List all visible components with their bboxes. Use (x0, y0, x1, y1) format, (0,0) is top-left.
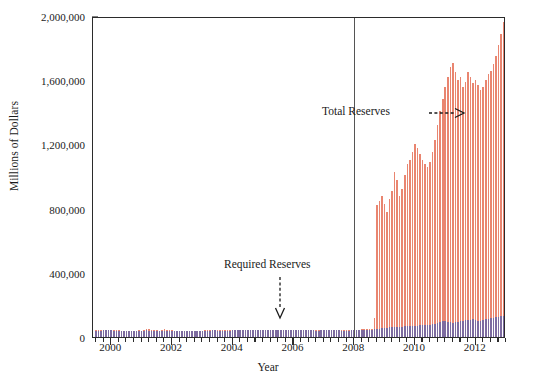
bar (389, 199, 391, 337)
x-axis-minor-tick-mark (277, 338, 278, 342)
bar (444, 87, 446, 337)
x-axis-minor-tick-mark (254, 338, 255, 342)
bar (381, 328, 383, 337)
x-axis-minor-tick-mark (194, 338, 195, 342)
bar (212, 330, 214, 337)
x-axis-minor-tick-mark (330, 338, 331, 342)
bar (126, 331, 128, 337)
bar (184, 331, 186, 337)
bar (419, 154, 421, 337)
x-axis-tick-label: 2006 (281, 341, 303, 353)
bar (488, 319, 490, 337)
bar (450, 322, 452, 337)
bar (338, 330, 340, 337)
bar (156, 331, 158, 337)
bar (488, 74, 490, 337)
bar (437, 323, 439, 337)
bar (326, 330, 328, 337)
bar (181, 331, 183, 337)
bar (376, 205, 378, 337)
bar (164, 331, 166, 337)
x-axis-minor-tick-mark (125, 338, 126, 342)
x-axis-minor-tick-mark (308, 338, 309, 342)
bar (105, 330, 107, 337)
bar (409, 160, 411, 337)
bar (404, 175, 406, 337)
bar (313, 330, 315, 337)
y-axis-tick-label: 2,000,000 (5, 11, 85, 23)
bar (490, 71, 492, 337)
bar (396, 327, 398, 337)
bar (318, 331, 320, 338)
x-axis-minor-tick-mark (490, 338, 491, 342)
bar (472, 319, 474, 337)
x-axis-minor-tick-mark (497, 338, 498, 342)
bar (419, 325, 421, 337)
bar (427, 167, 429, 337)
bar (341, 331, 343, 338)
x-axis-minor-tick-mark (148, 338, 149, 342)
bar (194, 331, 196, 337)
bar (308, 330, 310, 337)
bar (470, 320, 472, 337)
bar (462, 321, 464, 337)
bar (153, 331, 155, 337)
bar (391, 191, 393, 337)
x-axis-minor-tick-mark (323, 338, 324, 342)
annotation-arrow-total-reserves (428, 105, 468, 121)
x-axis-minor-tick-mark (376, 338, 377, 342)
bar (384, 204, 386, 337)
bar (336, 330, 338, 337)
x-axis-minor-tick-mark (95, 338, 96, 342)
bar (346, 331, 348, 337)
bar (252, 330, 254, 337)
y-axis-tick-label: 400,000 (5, 268, 85, 280)
bar (272, 330, 274, 337)
bar (417, 326, 419, 337)
x-axis-minor-tick-mark (186, 338, 187, 342)
bar (303, 330, 305, 337)
bar (229, 331, 231, 337)
bar (348, 331, 350, 337)
bar (176, 331, 178, 337)
bar (389, 327, 391, 337)
x-axis-minor-tick-mark (338, 338, 339, 342)
bar (199, 331, 201, 337)
bar (369, 330, 371, 337)
bar (485, 80, 487, 337)
bar (394, 327, 396, 337)
bar (407, 164, 409, 337)
bar (472, 83, 474, 337)
plot-area (92, 17, 505, 338)
bar (237, 330, 239, 337)
bar (500, 34, 502, 337)
bar (280, 330, 282, 337)
bar (399, 327, 401, 337)
bar (234, 330, 236, 337)
bar (379, 201, 381, 337)
bar (394, 172, 396, 337)
bar (186, 331, 188, 337)
bar (293, 330, 295, 337)
bar (116, 331, 118, 337)
bar (159, 331, 161, 337)
x-axis-tick-label: 2000 (99, 341, 121, 353)
bar (424, 325, 426, 337)
bar (277, 330, 279, 337)
bar (417, 148, 419, 337)
bar (133, 331, 135, 337)
bar (288, 330, 290, 337)
annotation-arrow-required-reserves (272, 276, 288, 322)
bar (401, 327, 403, 337)
x-axis-minor-tick-mark (270, 338, 271, 342)
bar (290, 330, 292, 337)
bar (171, 331, 173, 337)
x-axis-minor-tick-mark (209, 338, 210, 342)
bar (434, 324, 436, 337)
bar (452, 323, 454, 337)
x-axis-minor-tick-mark (133, 338, 134, 342)
bar (462, 87, 464, 337)
bar (434, 140, 436, 337)
bar (255, 330, 257, 337)
bar (315, 331, 317, 338)
